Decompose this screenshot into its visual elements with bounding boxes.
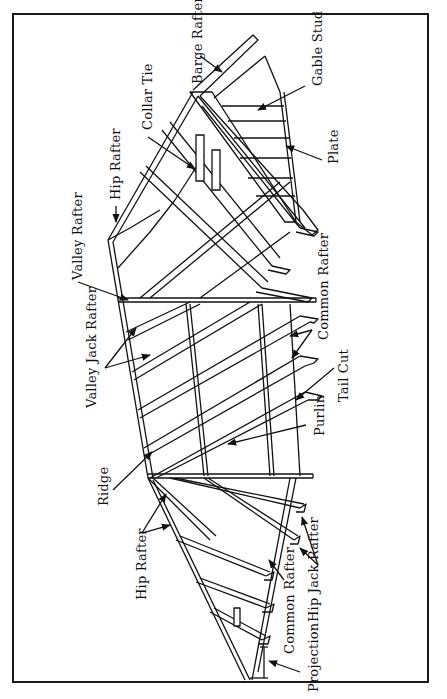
label-hip-jack-rafter: Hip Jack Rafter [306, 517, 321, 622]
label-tail-cut: Tail Cut [336, 349, 351, 402]
roof-framing-drawing [0, 0, 447, 699]
gable-end [190, 35, 318, 235]
label-valley-rafter: Valley Rafter [70, 192, 85, 280]
eave-line [108, 240, 153, 478]
valley-spoke [118, 182, 316, 302]
label-projection: Projection [306, 623, 321, 692]
label-ridge: Ridge [96, 467, 111, 506]
label-collar-tie: Collar Tie [140, 63, 155, 130]
label-common-rafter-bottom: Common Rafter [282, 547, 297, 654]
label-common-rafter-top: Common Rafter [316, 233, 331, 340]
hip-spoke [148, 474, 313, 478]
label-purlin: Purlin [312, 395, 327, 436]
label-plate: Plate [326, 129, 341, 164]
label-valley-jack-rafter: Valley Jack Rafter [84, 287, 99, 408]
label-hip-rafter-bottom: Hip Rafter [134, 528, 149, 600]
common-rafters-middle [126, 302, 322, 478]
label-hip-rafter-top: Hip Rafter [108, 128, 123, 200]
label-gable-stud: Gable Stud [310, 11, 325, 86]
label-barge-rafter: Barge Rafter [190, 0, 205, 84]
